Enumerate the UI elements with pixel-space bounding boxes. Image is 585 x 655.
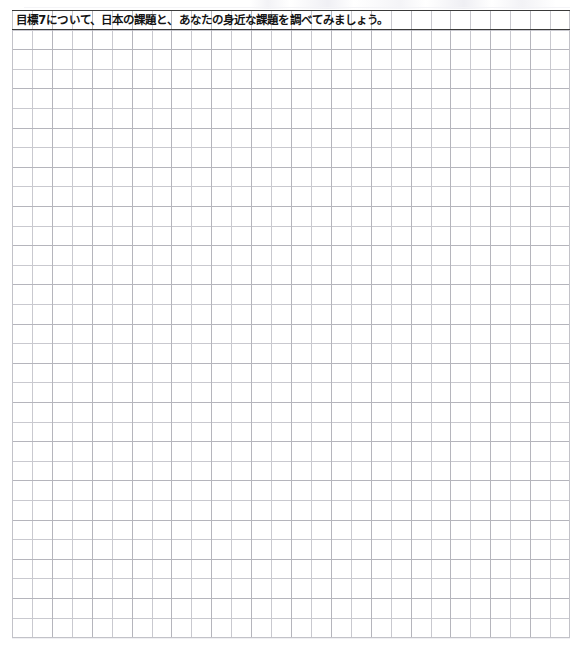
prompt-row: 目標7について、日本の課題と、あなたの身近な課題を調べてみましょう。 bbox=[12, 10, 570, 30]
scan-noise-artifact bbox=[250, 0, 570, 9]
prompt-text: 目標7について、日本の課題と、あなたの身近な課題を調べてみましょう。 bbox=[12, 11, 388, 29]
grid-frame bbox=[12, 10, 570, 638]
worksheet-page: 目標7について、日本の課題と、あなたの身近な課題を調べてみましょう。 bbox=[0, 0, 585, 655]
scan-noise-line bbox=[24, 7, 570, 8]
answer-grid[interactable]: 目標7について、日本の課題と、あなたの身近な課題を調べてみましょう。 bbox=[12, 10, 570, 638]
paper-bottom-edge bbox=[12, 638, 570, 639]
